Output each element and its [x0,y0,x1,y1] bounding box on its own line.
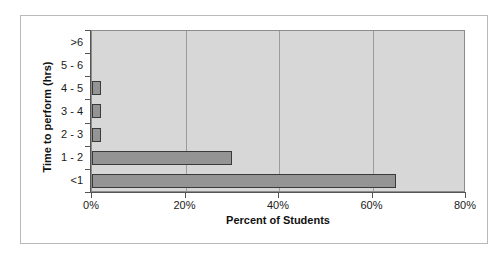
y-axis-tick [85,53,90,54]
bar-4-5 [92,81,101,95]
x-axis-tick-label-0: 0% [83,199,99,211]
y-axis-tick [85,123,90,124]
y-axis-spine [90,30,91,193]
bar-row [92,100,464,123]
y-axis-tick [85,146,90,147]
x-axis-tick-label-40: 40% [267,199,289,211]
x-axis-tick-label-20: 20% [173,199,195,211]
y-axis-tick [85,99,90,100]
x-axis-tick-label-60: 60% [360,199,382,211]
bar-1-2 [92,151,232,165]
plot-area [91,30,465,192]
bar-row [92,77,464,100]
y-axis-tick [85,76,90,77]
bar-row [92,170,464,193]
bar-lt1 [92,174,396,188]
x-axis-tick [278,193,279,198]
bar-row [92,54,464,77]
y-axis-title: Time to perform (hrs) [41,32,53,202]
x-axis-tick [465,193,466,198]
bar-row [92,31,464,54]
x-axis-tick [185,193,186,198]
y-axis-tick [85,30,90,31]
bar-row [92,147,464,170]
y-axis-tick [85,192,90,193]
bar-row [92,124,464,147]
x-axis-tick-label-80: 80% [454,199,476,211]
bar-3-4 [92,104,101,118]
x-axis-title: Percent of Students [91,214,465,226]
x-axis-tick [372,193,373,198]
y-axis-tick [85,169,90,170]
bar-chart: >6 5 - 6 4 - 5 3 - 4 2 - 3 1 - 2 <1 0% 2… [0,0,503,258]
x-axis-tick [91,193,92,198]
bar-2-3 [92,128,101,142]
